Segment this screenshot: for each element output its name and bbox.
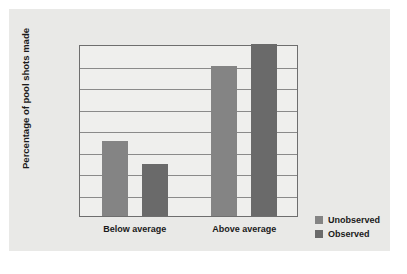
chart-figure: Percentage of pool shots made 0102030405… [0,0,407,274]
plot-area: 01020304050607080 Below averageAbove ave… [79,45,298,217]
x-axis-tick-label: Above average [184,224,304,234]
bar-unobserved-below-average [102,141,128,216]
chart-panel: Percentage of pool shots made 0102030405… [9,9,390,251]
legend-swatch-icon [315,230,323,238]
y-axis-title: Percentage of pool shots made [20,0,31,249]
bar-observed-above-average [251,44,277,216]
chart-legend: UnobservedObserved [315,213,380,241]
legend-label: Unobserved [328,215,380,225]
legend-swatch-icon [315,216,323,224]
x-axis-tick-label: Below average [75,224,195,234]
legend-label: Observed [328,229,370,239]
legend-item-unobserved[interactable]: Unobserved [315,213,380,227]
bar-observed-below-average [142,164,168,216]
bar-unobserved-above-average [211,66,237,217]
legend-item-observed[interactable]: Observed [315,227,380,241]
